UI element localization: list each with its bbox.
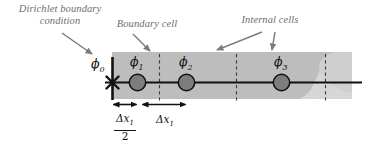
dx-symbol: Δx — [116, 112, 130, 124]
arrow-internal-right — [272, 32, 275, 50]
label-phi1: ϕ1 — [130, 55, 144, 74]
phi1-symbol: ϕ — [130, 54, 139, 69]
arrow-internal-left — [217, 32, 262, 50]
phi3-subscript: 3 — [283, 63, 288, 72]
dx-subscript-2: 1 — [170, 120, 174, 128]
node-phi2 — [178, 74, 194, 90]
phi0-symbol: ϕ — [91, 56, 100, 71]
label-phi3: ϕ3 — [274, 55, 288, 74]
phi2-symbol: ϕ — [179, 54, 188, 69]
phi2-subscript: 2 — [188, 63, 193, 72]
annotation-arrows — [62, 32, 275, 54]
label-phi2: ϕ2 — [179, 55, 193, 74]
fraction-half-dx1: Δx1 2 — [114, 113, 136, 142]
node-phi1 — [129, 74, 145, 90]
dimension-label-half-dx1: Δx1 2 — [107, 113, 143, 142]
dx-subscript: 1 — [130, 119, 134, 127]
phi3-symbol: ϕ — [274, 54, 283, 69]
label-phi0: ϕ0 — [91, 57, 105, 76]
fraction-denominator: 2 — [114, 131, 136, 142]
figure-canvas: Dirichlet boundary condition Boundary ce… — [0, 0, 365, 149]
fraction-numerator: Δx1 — [114, 113, 136, 129]
dx-symbol-2: Δx — [156, 113, 170, 125]
arrow-boundary — [133, 34, 150, 51]
dimension-label-dx1: Δx1 — [146, 114, 184, 130]
domain-band — [112, 52, 352, 99]
arrow-dirichlet — [62, 33, 92, 54]
phi0-subscript: 0 — [100, 65, 105, 74]
annotation-internal-cells: Internal cells — [224, 14, 316, 26]
node-phi3 — [273, 74, 289, 90]
phi1-subscript: 1 — [139, 63, 144, 72]
annotation-boundary-cell: Boundary cell — [98, 18, 196, 30]
